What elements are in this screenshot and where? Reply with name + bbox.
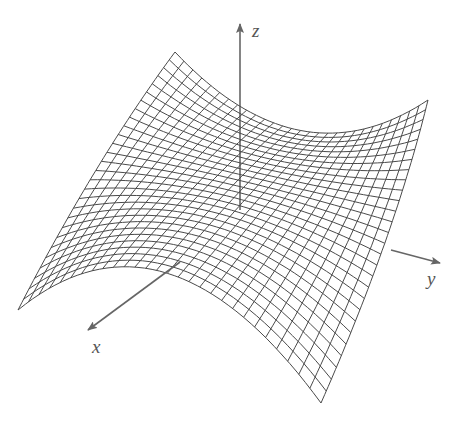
- mesh-line-v: [71, 93, 220, 278]
- mesh-line-u: [24, 260, 327, 391]
- mesh-line-v: [310, 106, 419, 388]
- wireframe-mesh: [18, 52, 428, 403]
- mesh-line-v: [178, 132, 310, 277]
- y-axis: [391, 250, 440, 263]
- z-axis-label: z: [252, 20, 259, 42]
- mesh-line-v: [211, 133, 337, 293]
- y-axis-label: y: [427, 268, 435, 290]
- mesh-line-u: [158, 76, 421, 147]
- x-axis: [88, 262, 180, 330]
- mesh-line-v: [50, 78, 202, 288]
- mesh-line-v: [277, 120, 392, 349]
- mesh-line-u: [73, 202, 368, 287]
- mesh-line-v: [321, 100, 428, 403]
- mesh-line-u: [79, 195, 373, 276]
- mesh-line-u: [51, 228, 351, 333]
- mesh-line-v: [167, 131, 300, 274]
- x-axis-label: x: [92, 336, 100, 358]
- mesh-line-v: [18, 52, 175, 310]
- mesh-line-u: [18, 267, 321, 403]
- mesh-line-u: [169, 60, 425, 138]
- saddle-surface-figure: [0, 0, 454, 435]
- mesh-line-v: [255, 126, 374, 327]
